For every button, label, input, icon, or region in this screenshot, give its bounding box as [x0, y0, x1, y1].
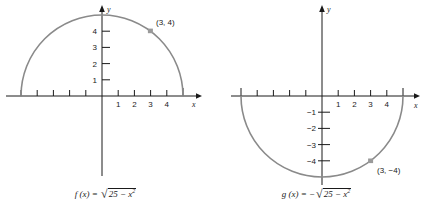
plot-g: x y 1 2 3 4 −1 −2 −3 −4 (3, −4): [211, 0, 422, 190]
x-tick-label-4: 4: [385, 100, 390, 109]
x-tick-label-3: 3: [368, 100, 373, 109]
y-tick-label-3: 3: [93, 43, 98, 52]
plot-f: x y 1 2 3 4 1 2 3 4 (3, 4): [0, 0, 211, 190]
x-tick-label-1: 1: [336, 100, 341, 109]
graph-panel-f: x y 1 2 3 4 1 2 3 4 (3, 4) f (x) = √25 −…: [0, 0, 211, 218]
caption-g-radical: √25 − x2: [315, 188, 351, 199]
y-tick-label-1: 1: [93, 76, 98, 85]
y-tick-label-2: 2: [93, 60, 98, 69]
y-tick-label-neg1: −1: [307, 108, 317, 117]
caption-f-exponent: 2: [132, 188, 135, 194]
caption-f-radicand: 25 − x: [109, 189, 133, 199]
y-tick-label-neg2: −2: [307, 124, 317, 133]
point-marker-3-4: [148, 29, 153, 34]
caption-f: f (x) = √25 − x2: [0, 188, 211, 199]
y-tick-label-neg4: −4: [307, 157, 317, 166]
caption-f-radicand-group: 25 − x2: [108, 188, 137, 199]
x-tick-label-1: 1: [116, 100, 121, 109]
x-tick-label-2: 2: [352, 100, 357, 109]
caption-g-radicand: 25 − x: [324, 189, 348, 199]
x-tick-label-2: 2: [132, 100, 137, 109]
caption-g-exponent: 2: [347, 188, 350, 194]
y-tick-label-neg3: −3: [307, 141, 317, 150]
graph-panel-g: x y 1 2 3 4 −1 −2 −3 −4 (3, −4) g (x) = …: [211, 0, 422, 218]
y-axis-label: y: [106, 5, 111, 14]
y-axis-ticks: [102, 31, 110, 80]
caption-g-prefix: g (x) = −: [282, 189, 315, 199]
x-tick-label-3: 3: [148, 100, 153, 109]
y-axis-arrow: [319, 5, 325, 12]
x-tick-label-4: 4: [165, 100, 170, 109]
caption-f-radical: √25 − x2: [100, 188, 136, 199]
caption-g-radicand-group: 25 − x2: [323, 188, 352, 199]
y-tick-label-4: 4: [93, 27, 98, 36]
point-marker-3-neg4: [368, 159, 373, 164]
x-axis-label: x: [191, 100, 196, 109]
point-label-3-4: (3, 4): [156, 18, 175, 27]
x-axis-arrow: [414, 93, 420, 99]
caption-f-prefix: f (x) =: [75, 189, 100, 199]
y-axis-arrow: [99, 5, 105, 12]
two-semicircle-graphs-figure: x y 1 2 3 4 1 2 3 4 (3, 4) f (x) = √25 −…: [0, 0, 422, 218]
y-axis-ticks: [318, 112, 330, 161]
point-label-3-neg4: (3, −4): [377, 166, 401, 175]
sqrt-icon: √: [101, 187, 108, 201]
x-axis-label: x: [413, 101, 418, 110]
y-axis-label: y: [326, 5, 331, 14]
sqrt-icon: √: [316, 187, 323, 201]
x-axis-arrow: [196, 93, 202, 99]
caption-g: g (x) = −√25 − x2: [211, 188, 422, 199]
